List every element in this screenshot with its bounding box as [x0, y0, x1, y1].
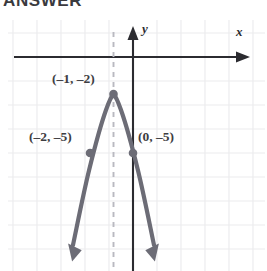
point-right-root: [129, 149, 138, 158]
figure-root: ANSWER: [0, 0, 267, 271]
parabola-graph: (–1, –2) (–2, –5) (0, –5) x y: [0, 0, 267, 271]
point-label-left: (–2, –5): [29, 129, 72, 145]
curve-arrowhead-left: [68, 244, 82, 262]
point-left-root: [86, 149, 95, 158]
point-vertex: [109, 90, 118, 99]
y-axis-label: y: [142, 21, 148, 37]
point-label-right: (0, –5): [138, 129, 174, 145]
x-axis-label: x: [236, 24, 243, 40]
point-label-vertex: (–1, –2): [52, 71, 95, 87]
x-axis-arrowhead: [236, 52, 250, 63]
